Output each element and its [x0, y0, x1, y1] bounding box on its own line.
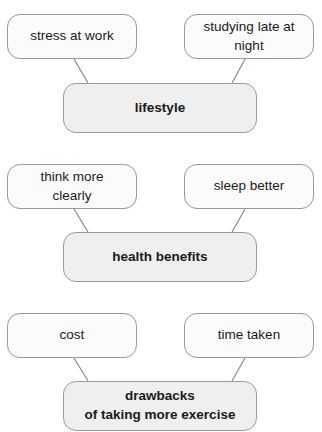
connector-lifestyle-left [74, 59, 88, 83]
connector-health-left [74, 209, 88, 232]
node-health-benefits-center: health benefits [63, 232, 257, 282]
node-label: studying late at night [204, 18, 295, 56]
node-stress-at-work: stress at work [7, 14, 137, 59]
center-label: drawbacks of taking more exercise [85, 387, 236, 425]
connector-health-right [232, 209, 245, 232]
center-label: lifestyle [135, 99, 185, 118]
connector-lifestyle-right [232, 59, 245, 83]
node-label: time taken [218, 326, 280, 345]
node-label: cost [60, 326, 85, 345]
connector-drawbacks-left [74, 358, 88, 381]
node-sleep-better: sleep better [184, 164, 314, 209]
node-label: think more clearly [40, 168, 103, 206]
node-label: stress at work [30, 27, 113, 46]
connector-lines [0, 0, 322, 432]
node-think-more-clearly: think more clearly [7, 164, 137, 209]
node-drawbacks-center: drawbacks of taking more exercise [63, 381, 257, 431]
center-label: health benefits [112, 248, 207, 267]
node-studying-late-at-night: studying late at night [184, 14, 314, 59]
node-cost: cost [7, 313, 137, 358]
connector-drawbacks-right [232, 358, 245, 381]
node-label: sleep better [214, 177, 285, 196]
node-time-taken: time taken [184, 313, 314, 358]
node-lifestyle-center: lifestyle [63, 83, 257, 133]
